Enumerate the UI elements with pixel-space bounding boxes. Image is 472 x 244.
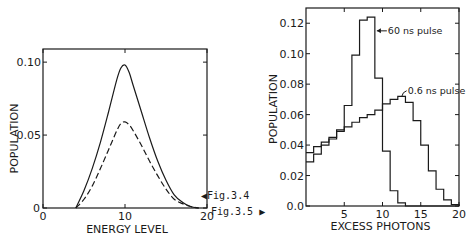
energy-level-chart: 0.050.10010200ENERGY LEVELPOPULATION xyxy=(8,49,214,236)
x-tick-label: 0 xyxy=(40,210,47,223)
y-tick-label: 0.0 xyxy=(287,200,305,213)
annotation-60ns: 60 ns pulse xyxy=(388,25,443,36)
arrow-right-icon: ▶ xyxy=(259,206,265,217)
plot-frame xyxy=(43,49,207,208)
y-tick-label: 0.06 xyxy=(280,109,305,122)
y-axis-label: POPULATION xyxy=(267,74,280,144)
x-tick-label: 10 xyxy=(118,210,132,223)
y-tick-label: 0.02 xyxy=(280,170,305,183)
excess-photons-histogram: 0.00.020.040.060.080.100.125101520EXCESS… xyxy=(267,8,466,233)
solid-curve xyxy=(76,65,199,208)
x-axis-label: ENERGY LEVEL xyxy=(86,223,169,236)
dashed-curve xyxy=(76,122,199,208)
fig-3-5-label: Fig.3.5 xyxy=(211,206,253,217)
y-tick-label: 0 xyxy=(33,202,40,215)
arrow-head-icon xyxy=(377,28,381,33)
fig-3-5-ref: Fig.3.5 ▶ xyxy=(211,206,265,217)
y-tick-label: 0.12 xyxy=(280,17,305,30)
y-tick-label: 0.10 xyxy=(17,56,42,69)
x-axis-label: EXCESS PHOTONS xyxy=(331,220,431,233)
y-tick-label: 0.10 xyxy=(280,48,305,61)
y-axis-label: POPULATION xyxy=(8,104,21,174)
x-tick-label: 20 xyxy=(452,208,466,221)
y-tick-label: 0.08 xyxy=(280,78,305,91)
annotation-0-6ns: 0.6 ns pulse xyxy=(408,85,466,96)
y-tick-label: 0.04 xyxy=(280,139,305,152)
fig-3-4-label: Fig.3.4 xyxy=(207,190,249,201)
fig-3-4-ref: ◀Fig.3.4 xyxy=(201,190,249,201)
